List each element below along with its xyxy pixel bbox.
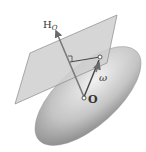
- origin-point: [82, 96, 86, 100]
- contact-point: [98, 55, 102, 59]
- angular-velocity-label: ω: [99, 72, 107, 83]
- angular-momentum-label: HO: [43, 19, 58, 32]
- origin-label: O: [88, 93, 98, 106]
- diagram-canvas: HO ω O: [0, 0, 146, 152]
